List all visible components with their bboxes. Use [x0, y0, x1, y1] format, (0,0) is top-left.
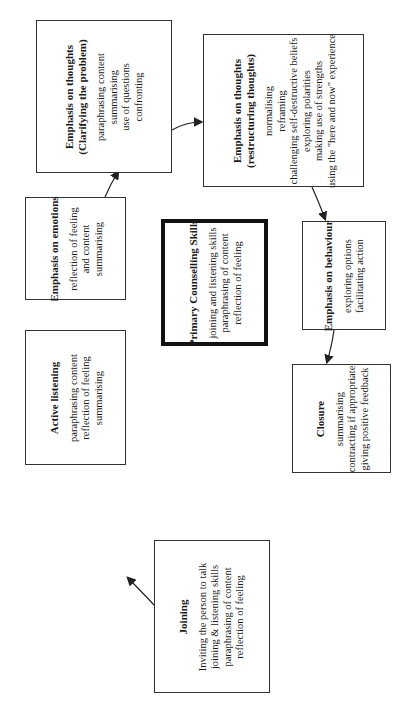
- box-item: paraphrasing of content: [218, 219, 231, 346]
- box-item: summarising: [333, 365, 346, 472]
- arrow-joining-to-active-listening: [128, 578, 154, 605]
- box-title: Emphasis on thoughts: [230, 33, 243, 187]
- box-primary-counselling-skills: Primary Counselling Skills joining and l…: [161, 219, 268, 346]
- box-item: making use of strengths: [312, 33, 325, 187]
- box-item: paraphrasing content: [95, 39, 108, 154]
- box-item: paraphrasing content: [67, 354, 80, 442]
- box-item: paraphrasing of content: [222, 562, 235, 670]
- box-item: summarising: [92, 354, 105, 442]
- box-title: Closure: [313, 365, 326, 472]
- arrow-clarifying-to-restructuring: [172, 122, 201, 130]
- box-item: joining & listening skills: [209, 562, 222, 670]
- box-item: challenging self-destructive beliefs: [287, 33, 300, 187]
- box-title: Emphasis on emotions: [47, 196, 60, 301]
- box-item: summarising: [92, 196, 105, 301]
- arrow-emotions-to-clarifying: [105, 172, 118, 197]
- box-item: and content: [79, 196, 92, 301]
- box-item: use of questions: [120, 39, 133, 154]
- box-title: Emphasis on thoughts: [63, 39, 76, 154]
- box-item: reflection of feeling: [234, 562, 247, 670]
- box-title: Joining: [177, 562, 190, 670]
- box-item: exploring polarities: [300, 33, 313, 187]
- box-item: reflection of feeling: [231, 219, 244, 346]
- box-emphasis-on-behaviour: Emphasis on behaviour exploring options …: [302, 221, 386, 330]
- box-item: normalising: [262, 33, 275, 187]
- arrow-behaviour-to-closure: [327, 330, 334, 362]
- box-title: Emphasis on behaviour: [322, 220, 335, 331]
- box-item: giving positive feedback: [358, 365, 371, 472]
- box-item: using the "here and now" experience: [325, 33, 338, 187]
- box-item: summarising: [108, 39, 121, 154]
- box-item: contracting if appropriate: [345, 365, 358, 472]
- box-item: reflection of feeling: [79, 354, 92, 442]
- box-closure: Closure summarising contracting if appro…: [292, 364, 391, 473]
- arrow-restructuring-to-behaviour: [312, 187, 325, 219]
- box-item: reflection of feeling: [67, 196, 80, 301]
- box-item: exploring options: [341, 220, 354, 331]
- box-clarifying-the-problem: Emphasis on thoughts (Clarifying the pro…: [36, 20, 172, 173]
- box-title: (restructuring thoughts): [243, 33, 256, 187]
- box-item: facilitating action: [354, 220, 367, 331]
- box-emphasis-on-emotions: Emphasis on emotions reflection of feeli…: [25, 197, 126, 300]
- box-title: Primary Counselling Skills: [186, 219, 199, 346]
- box-item: joining and listening skills: [206, 219, 219, 346]
- box-item: confronting: [133, 39, 146, 154]
- box-title: (Clarifying the problem): [76, 39, 89, 154]
- box-active-listening: Active listening paraphrasing content re…: [25, 330, 126, 465]
- box-item: Inviting the person to talk: [197, 562, 210, 670]
- box-title: Active listening: [47, 354, 60, 442]
- box-item: reframing: [275, 33, 288, 187]
- box-joining: Joining Inviting the person to talk join…: [154, 540, 270, 693]
- box-restructuring-thoughts: Emphasis on thoughts (restructuring thou…: [203, 34, 364, 187]
